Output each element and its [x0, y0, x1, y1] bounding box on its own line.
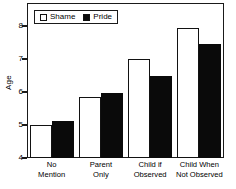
bar-pride-1	[101, 93, 123, 158]
legend: Shame Pride	[34, 10, 118, 24]
bar-pride-2	[150, 76, 172, 158]
legend-item-shame: Shame	[40, 13, 75, 21]
bar-shame-0	[30, 125, 52, 158]
bar-shame-2	[128, 59, 150, 158]
bar-pride-3	[199, 44, 221, 158]
bar-shame-3	[177, 28, 199, 158]
x-axis-category-labels: NoMentionParentOnlyChild ifObservedChild…	[27, 160, 224, 189]
legend-label-pride: Pride	[93, 13, 112, 21]
legend-item-pride: Pride	[83, 13, 112, 21]
bar-shame-1	[79, 97, 101, 158]
bars-layer	[27, 3, 224, 158]
bar-chart: Age 45678 Shame Pride NoMentionParentOnl…	[0, 0, 236, 189]
legend-label-shame: Shame	[50, 13, 75, 21]
bar-pride-0	[52, 121, 74, 158]
x-tick-label: Child WhenNot Observed	[165, 160, 233, 179]
legend-swatch-pride-icon	[83, 14, 90, 21]
legend-swatch-shame-icon	[40, 14, 47, 21]
